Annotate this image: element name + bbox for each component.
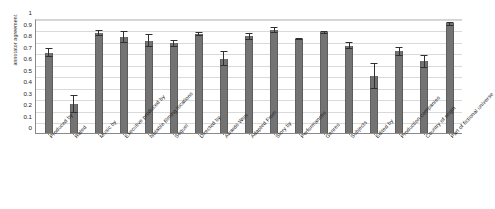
error-bar xyxy=(271,27,278,33)
error-bar xyxy=(321,31,328,34)
error-bar-cap-bottom xyxy=(446,25,453,26)
bar xyxy=(420,61,428,132)
error-bar xyxy=(170,40,177,47)
error-bar xyxy=(220,51,227,66)
error-bar-line xyxy=(73,95,74,113)
error-bar-cap-bottom xyxy=(321,33,328,34)
error-bar-cap-bottom xyxy=(396,55,403,56)
error-bar-line xyxy=(374,63,375,89)
error-bar xyxy=(421,55,428,68)
y-axis-tick-0.3: 0.3 xyxy=(23,91,32,97)
error-bar-cap-bottom xyxy=(95,35,102,36)
y-axis-tick-1: 1 xyxy=(29,10,32,16)
bar xyxy=(120,37,128,132)
error-bar-cap-top xyxy=(220,51,227,52)
error-bar xyxy=(95,30,102,37)
bar xyxy=(295,39,303,133)
bar xyxy=(220,59,228,132)
error-bar-cap-bottom xyxy=(246,39,253,40)
error-bar-cap-top xyxy=(45,48,52,49)
y-axis-tick-0.8: 0.8 xyxy=(23,33,32,39)
error-bar xyxy=(70,95,77,113)
error-bar-cap-bottom xyxy=(120,42,127,43)
y-axis-tick-0.1: 0.1 xyxy=(23,114,32,120)
error-bar xyxy=(120,31,127,44)
error-bar-cap-bottom xyxy=(421,67,428,68)
bar-slot xyxy=(186,20,211,133)
error-bar xyxy=(195,32,202,36)
error-bar-cap-top xyxy=(421,55,428,56)
error-bar xyxy=(396,47,403,56)
error-bar-cap-top xyxy=(396,47,403,48)
y-axis-tick-0: 0 xyxy=(29,125,32,131)
error-bar-cap-bottom xyxy=(296,39,303,40)
bar xyxy=(170,43,178,132)
bar xyxy=(45,53,53,133)
error-bar-cap-top xyxy=(95,30,102,31)
error-bar-cap-bottom xyxy=(195,35,202,36)
error-bar-cap-top xyxy=(120,31,127,32)
y-axis-tick-0.6: 0.6 xyxy=(23,56,32,62)
error-bar-cap-bottom xyxy=(170,46,177,47)
error-bar-cap-top xyxy=(170,40,177,41)
y-axis-tick-0.2: 0.2 xyxy=(23,102,32,108)
error-bar-cap-top xyxy=(446,22,453,23)
y-axis-tick-0.9: 0.9 xyxy=(23,22,32,28)
error-bar-cap-top xyxy=(371,63,378,64)
bar-slot xyxy=(387,20,412,133)
error-bar xyxy=(371,63,378,89)
error-bar-cap-bottom xyxy=(220,65,227,66)
error-bar-cap-top xyxy=(195,32,202,33)
bar xyxy=(395,51,403,132)
bar-slot xyxy=(337,20,362,133)
bar xyxy=(195,34,203,132)
bar xyxy=(370,76,378,133)
bar xyxy=(345,46,353,133)
error-bar xyxy=(296,38,303,40)
bar xyxy=(95,33,103,132)
error-bar-cap-bottom xyxy=(45,56,52,57)
y-axis-tick-0.7: 0.7 xyxy=(23,45,32,51)
error-bar xyxy=(346,42,353,49)
error-bar-cap-top xyxy=(70,95,77,96)
bar-slot xyxy=(36,20,61,133)
error-bar xyxy=(446,22,453,26)
error-bar-cap-top xyxy=(321,31,328,32)
error-bar-cap-bottom xyxy=(346,48,353,49)
error-bar xyxy=(45,48,52,57)
error-bar xyxy=(145,34,152,47)
error-bar-cap-top xyxy=(346,42,353,43)
bar-slot xyxy=(111,20,136,133)
error-bar-cap-top xyxy=(246,33,253,34)
error-bar xyxy=(246,33,253,40)
y-axis-tick-0.5: 0.5 xyxy=(23,68,32,74)
error-bar-cap-bottom xyxy=(371,88,378,89)
error-bar-cap-top xyxy=(271,27,278,28)
error-bar-cap-bottom xyxy=(271,32,278,33)
x-axis-category-labels: Produced byRatedMusic byExecutive produc… xyxy=(35,135,462,209)
error-bar-line xyxy=(223,51,224,66)
bar-slot xyxy=(362,20,387,133)
y-axis-tick-0.4: 0.4 xyxy=(23,79,32,85)
error-bar-cap-top xyxy=(145,34,152,35)
bar-slot xyxy=(287,20,312,133)
bar-slot xyxy=(86,20,111,133)
error-bar-cap-bottom xyxy=(145,46,152,47)
y-axis-tick-labels: 10.90.80.70.60.50.40.30.20.10 xyxy=(14,13,32,137)
